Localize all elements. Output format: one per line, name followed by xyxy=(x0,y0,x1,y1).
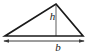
base-label: b xyxy=(55,41,61,53)
height-label: h xyxy=(50,10,56,22)
triangle-figure: h b xyxy=(0,0,87,53)
triangle-diagram-canvas: h b xyxy=(0,0,87,53)
